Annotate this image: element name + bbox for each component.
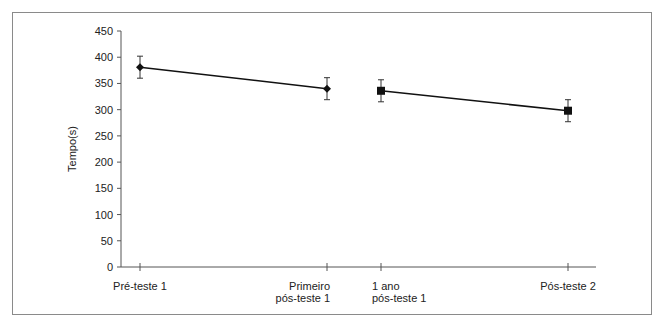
- diamond-marker: [323, 85, 331, 93]
- y-tick-label: 50: [101, 235, 113, 247]
- y-tick-label: 250: [95, 130, 113, 142]
- square-marker: [377, 87, 385, 95]
- y-tick-label: 350: [95, 77, 113, 89]
- series-line: [140, 67, 327, 89]
- y-tick-label: 300: [95, 104, 113, 116]
- x-tick-label: Pré-teste 1: [113, 280, 167, 292]
- x-tick-label: pós-teste 1: [276, 292, 330, 304]
- y-tick-label: 400: [95, 51, 113, 63]
- square-marker: [564, 107, 572, 115]
- series-line: [381, 91, 568, 111]
- y-tick-label: 200: [95, 156, 113, 168]
- y-tick-label: 0: [107, 261, 113, 273]
- x-tick-label: Primeiro: [289, 280, 330, 292]
- y-tick-label: 450: [95, 25, 113, 37]
- y-tick-label: 150: [95, 182, 113, 194]
- x-tick-label: pós-teste 1: [372, 292, 426, 304]
- x-tick-label: Pós-teste 2: [540, 280, 596, 292]
- diamond-marker: [136, 63, 144, 71]
- line-chart: 050100150200250300350400450Tempo(s)Pré-t…: [0, 0, 665, 327]
- y-tick-label: 100: [95, 209, 113, 221]
- y-axis-label: Tempo(s): [66, 126, 78, 172]
- x-tick-label: 1 ano: [372, 280, 400, 292]
